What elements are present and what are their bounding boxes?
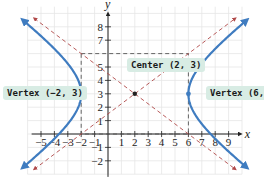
x-axis-label: x [244, 127, 251, 141]
y-tick-label: 7 [98, 34, 104, 46]
y-tick-label: 8 [98, 21, 104, 33]
x-tick-label: 4 [159, 136, 165, 148]
vertex-right-callout: Vertex (6, 3) [206, 86, 264, 100]
x-tick-label: 1 [119, 136, 125, 148]
y-tick-label: 2 [98, 101, 104, 113]
y-tick-label: −2 [91, 155, 103, 167]
x-tick-label: 6 [186, 136, 192, 148]
x-tick-label: −3 [62, 136, 74, 148]
x-tick-label: 5 [172, 136, 178, 148]
x-tick-label: 9 [226, 136, 232, 148]
x-tick-label: −2 [75, 136, 87, 148]
x-tick-label: 2 [132, 136, 138, 148]
vertex-point [186, 91, 191, 96]
y-tick-label: 4 [98, 74, 104, 86]
center-point [133, 92, 137, 96]
x-tick-label: 3 [145, 136, 151, 148]
y-tick-label: 3 [98, 88, 104, 100]
center-callout: Center (2, 3) [127, 58, 205, 72]
vertex-left-callout: Vertex (−2, 3) [3, 86, 87, 100]
y-axis-label: y [104, 0, 111, 11]
hyperbola-diagram: −5−4−3−2−1123456789−2−11234578xy Vertex … [0, 0, 264, 182]
y-tick-label: −1 [91, 141, 103, 153]
